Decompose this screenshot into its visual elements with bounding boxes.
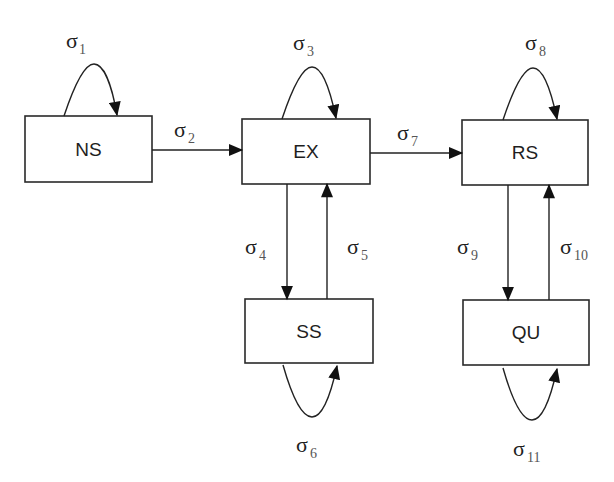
- state-ss-label: SS: [296, 321, 321, 342]
- label-sigma-10: σ 10: [560, 234, 588, 263]
- label-sigma-5: σ 5: [347, 234, 368, 263]
- label-sigma-6: σ 6: [296, 432, 317, 461]
- svg-text:1: 1: [79, 42, 86, 57]
- loop-ss-arrow: [283, 365, 337, 417]
- svg-text:σ: σ: [397, 120, 409, 145]
- state-qu: QU: [463, 300, 589, 365]
- svg-text:σ: σ: [245, 234, 257, 259]
- label-sigma-9: σ 9: [457, 234, 478, 263]
- state-ns-label: NS: [75, 139, 101, 160]
- svg-text:σ: σ: [296, 432, 308, 457]
- state-ss: SS: [245, 299, 373, 363]
- svg-text:9: 9: [471, 248, 478, 263]
- svg-text:3: 3: [307, 44, 314, 59]
- svg-text:8: 8: [539, 44, 546, 59]
- svg-text:10: 10: [574, 248, 588, 263]
- label-sigma-8: σ 8: [525, 30, 546, 59]
- state-rs-label: RS: [512, 142, 538, 163]
- svg-text:11: 11: [527, 450, 540, 465]
- svg-text:6: 6: [310, 446, 317, 461]
- svg-text:σ: σ: [174, 117, 186, 142]
- state-ex: EX: [242, 119, 370, 184]
- state-ns: NS: [25, 116, 152, 182]
- svg-text:σ: σ: [457, 234, 469, 259]
- state-rs: RS: [462, 120, 588, 185]
- loop-qu-arrow: [503, 368, 557, 420]
- state-qu-label: QU: [512, 322, 541, 343]
- label-sigma-7: σ 7: [397, 120, 418, 149]
- svg-text:σ: σ: [293, 30, 305, 55]
- svg-text:5: 5: [361, 248, 368, 263]
- loop-rs-arrow: [503, 68, 557, 120]
- label-sigma-1: σ 1: [66, 28, 86, 57]
- svg-text:2: 2: [188, 131, 195, 146]
- label-sigma-2: σ 2: [174, 117, 195, 146]
- svg-text:σ: σ: [513, 436, 525, 461]
- svg-text:σ: σ: [347, 234, 359, 259]
- loop-ex-arrow: [282, 67, 336, 119]
- svg-text:4: 4: [259, 248, 266, 263]
- label-sigma-3: σ 3: [293, 30, 314, 59]
- loop-ns-arrow: [64, 64, 117, 116]
- state-ex-label: EX: [293, 141, 319, 162]
- label-sigma-4: σ 4: [245, 234, 266, 263]
- svg-text:7: 7: [411, 134, 418, 149]
- svg-text:σ: σ: [66, 28, 78, 53]
- svg-text:σ: σ: [560, 234, 572, 259]
- label-sigma-11: σ 11: [513, 436, 540, 465]
- state-diagram: NS EX RS SS QU σ 1 σ 2 σ 3 σ 4: [0, 0, 614, 482]
- svg-text:σ: σ: [525, 30, 537, 55]
